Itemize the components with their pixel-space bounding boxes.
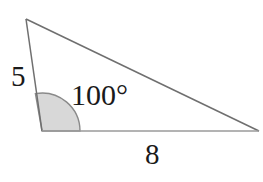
side-b-length-label: 8 (145, 140, 160, 169)
triangle-side-a (26, 19, 42, 131)
side-a-length-label: 5 (11, 62, 26, 91)
included-angle-label: 100° (71, 80, 128, 110)
triangle-drawing (0, 0, 263, 182)
triangle-figure: 5 100° 8 (0, 0, 263, 182)
